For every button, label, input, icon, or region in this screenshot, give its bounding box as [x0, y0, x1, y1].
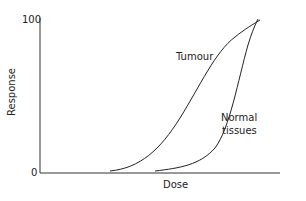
normal-tissues-curve: [155, 19, 258, 171]
tumour-label: Tumour: [176, 51, 213, 62]
normal-tissues-label-2: tissues: [222, 125, 257, 136]
y-tick-100: 100: [22, 14, 41, 25]
y-tick-0: 0: [31, 167, 37, 178]
tumour-curve: [110, 20, 260, 171]
chart-canvas: [0, 0, 306, 201]
x-axis-label: Dose: [163, 179, 188, 190]
y-axis-label: Response: [6, 68, 17, 116]
normal-tissues-label-1: Normal: [221, 112, 257, 123]
